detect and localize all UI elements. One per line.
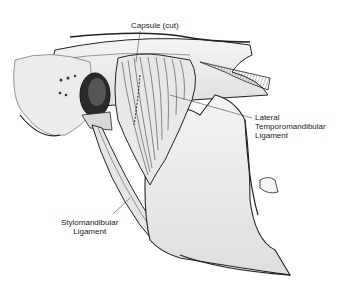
- label-capsule: Capsule (cut): [131, 21, 179, 30]
- tmj-drawing: [0, 0, 347, 283]
- tmj-illustration: Capsule (cut) Lateral Temporomandibular …: [0, 0, 347, 283]
- label-line: Temporomandibular: [255, 122, 326, 131]
- label-lateral-temporomandibular-ligament: Lateral Temporomandibular Ligament: [255, 113, 326, 140]
- ear-canal: [80, 73, 112, 130]
- label-line: Ligament: [61, 227, 118, 236]
- label-line: Lateral: [255, 113, 326, 122]
- label-stylomandibular-ligament: Stylomandibular Ligament: [61, 218, 118, 236]
- label-line: Stylomandibular: [61, 218, 118, 227]
- label-line: Ligament: [255, 131, 326, 140]
